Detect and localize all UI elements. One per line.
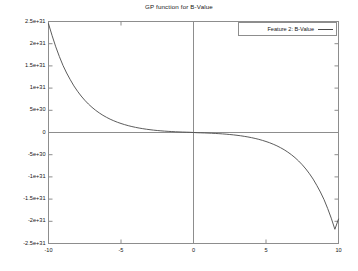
- y-tick-label-9: -2e+31: [28, 219, 46, 225]
- y-tick-label-6: -5e+30: [28, 152, 46, 158]
- y-tick-label-7: -1e+31: [28, 174, 46, 180]
- legend-line-swatch: [318, 29, 333, 30]
- y-tick-label-0: 2.5e+31: [25, 19, 45, 25]
- y-tick-label-8: -1.5e+31: [23, 196, 45, 202]
- chart-figure: GP function for B-Value 2.5e+312e+311.5e…: [0, 0, 358, 271]
- legend-label: Feature 2: B-Value: [267, 26, 314, 32]
- x-tick-label-1: -5: [119, 248, 124, 254]
- x-tick-label-2: 0: [192, 248, 195, 254]
- x-tick-label-4: 10: [335, 248, 341, 254]
- y-tick-label-2: 1.5e+31: [25, 63, 45, 69]
- legend-entry: Feature 2: B-Value: [238, 22, 337, 36]
- plot-area: [0, 0, 358, 271]
- y-tick-label-1: 2e+31: [30, 41, 46, 47]
- x-tick-label-3: 5: [264, 248, 267, 254]
- y-tick-label-5: 0: [42, 130, 45, 136]
- y-tick-label-4: 5e+30: [30, 108, 46, 114]
- x-tick-label-0: -10: [44, 248, 52, 254]
- y-tick-label-3: 1e+31: [30, 85, 46, 91]
- y-tick-label-10: -2.5e+31: [23, 241, 45, 247]
